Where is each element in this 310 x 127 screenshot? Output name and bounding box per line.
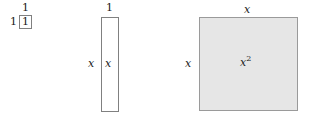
linear-tile-top-label: 1 — [106, 2, 113, 13]
linear-tile-left-label: x — [88, 58, 94, 69]
algebra-tiles-diagram: 1 1 1 1 x x x x x2 — [0, 0, 310, 127]
linear-tile-area-label: x — [105, 58, 111, 69]
unit-tile-left-label: 1 — [10, 16, 17, 27]
unit-tile-top-label: 1 — [22, 2, 29, 13]
quadratic-tile-top-label: x — [244, 4, 250, 15]
quadratic-tile-left-label: x — [185, 58, 191, 69]
quadratic-area-exponent: 2 — [246, 54, 251, 63]
unit-tile-area-label: 1 — [22, 16, 29, 27]
quadratic-tile-area-label: x2 — [240, 57, 251, 68]
